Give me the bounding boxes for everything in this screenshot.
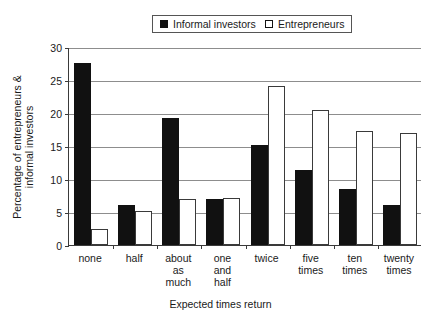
y-axis-tick-label: 10 bbox=[50, 174, 62, 186]
x-axis-tick-label: twice bbox=[245, 252, 289, 264]
bar-informal-investors bbox=[118, 205, 135, 245]
y-axis-title-line1: Percentage of entrepreneurs & bbox=[11, 75, 23, 219]
y-axis-tick-label: 25 bbox=[50, 75, 62, 87]
legend-label-entrepreneurs: Entrepreneurs bbox=[278, 19, 345, 30]
plot-area: 051015202530 bbox=[68, 48, 421, 246]
x-axis-tick-label: about as much bbox=[156, 252, 200, 288]
chart-legend: Informal investors Entrepreneurs bbox=[152, 15, 352, 33]
x-axis-tick-label: none bbox=[68, 252, 112, 264]
x-axis-tick-label: ten times bbox=[333, 252, 377, 276]
bar-group bbox=[334, 48, 378, 245]
bar-group bbox=[201, 48, 245, 245]
bar-entrepreneurs bbox=[91, 229, 108, 245]
bar-entrepreneurs bbox=[312, 110, 329, 245]
x-axis-tick bbox=[157, 245, 158, 249]
x-axis-tick bbox=[201, 245, 202, 249]
x-axis-tick bbox=[334, 245, 335, 249]
x-axis-title: Expected times return bbox=[0, 298, 441, 310]
x-axis-tick bbox=[113, 245, 114, 249]
bar-entrepreneurs bbox=[135, 211, 152, 245]
y-axis-tick-label: 20 bbox=[50, 108, 62, 120]
bar-entrepreneurs bbox=[268, 86, 285, 245]
bar-group bbox=[378, 48, 422, 245]
bar-informal-investors bbox=[74, 63, 91, 245]
bar-informal-investors bbox=[206, 199, 223, 245]
bar-chart-figure: Informal investors Entrepreneurs Percent… bbox=[0, 0, 441, 316]
x-axis-tick-label: five times bbox=[289, 252, 333, 276]
bar-informal-investors bbox=[383, 205, 400, 245]
legend-entry-entrepreneurs: Entrepreneurs bbox=[265, 19, 345, 30]
x-axis-tick bbox=[290, 245, 291, 249]
bar-entrepreneurs bbox=[223, 198, 240, 245]
bar-informal-investors bbox=[339, 189, 356, 245]
x-axis-tick-label: half bbox=[112, 252, 156, 264]
legend-swatch-informal-investors bbox=[160, 20, 168, 28]
bar-group bbox=[246, 48, 290, 245]
y-axis-title-line2: informal investors bbox=[23, 106, 35, 188]
bar-entrepreneurs bbox=[179, 199, 196, 245]
bar-informal-investors bbox=[295, 170, 312, 245]
bar-group bbox=[290, 48, 334, 245]
y-axis-tick-label: 5 bbox=[56, 207, 62, 219]
legend-swatch-entrepreneurs bbox=[265, 20, 273, 28]
y-axis-tick-label: 15 bbox=[50, 141, 62, 153]
y-axis-tick-label: 0 bbox=[56, 240, 62, 252]
bar-entrepreneurs bbox=[356, 131, 373, 245]
bar-informal-investors bbox=[251, 145, 268, 245]
x-axis-tick bbox=[246, 245, 247, 249]
y-axis-tick bbox=[65, 246, 69, 247]
bar-group bbox=[113, 48, 157, 245]
bar-group bbox=[157, 48, 201, 245]
bar-entrepreneurs bbox=[400, 133, 417, 245]
legend-entry-informal-investors: Informal investors bbox=[160, 19, 256, 30]
y-axis-title: Percentage of entrepreneurs & informal i… bbox=[10, 48, 36, 246]
x-axis-tick-label: twenty times bbox=[377, 252, 421, 276]
bar-group bbox=[69, 48, 113, 245]
x-axis-tick bbox=[378, 245, 379, 249]
y-axis-tick-label: 30 bbox=[50, 42, 62, 54]
x-axis-tick-label: one and half bbox=[200, 252, 244, 288]
legend-label-informal-investors: Informal investors bbox=[173, 19, 256, 30]
bar-informal-investors bbox=[162, 118, 179, 245]
